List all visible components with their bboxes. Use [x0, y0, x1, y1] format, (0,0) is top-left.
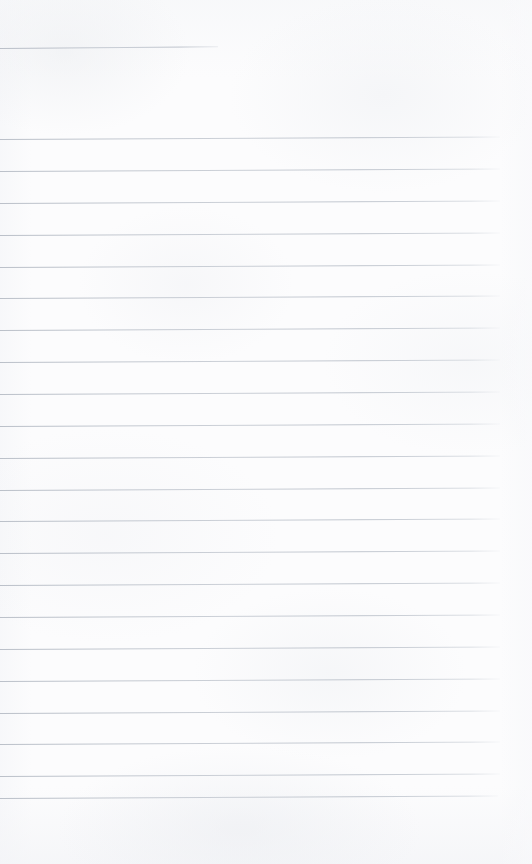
rule-07: [0, 327, 500, 331]
rule-21: [0, 773, 500, 777]
rule-15: [0, 582, 500, 586]
rule-12: [0, 487, 500, 491]
rule-18: [0, 678, 500, 682]
scanned-page: [0, 0, 532, 864]
rule-05: [0, 264, 500, 268]
right-margin-band: [498, 0, 532, 864]
rule-10: [0, 423, 500, 427]
rule-04: [0, 232, 500, 236]
rule-02: [0, 168, 500, 172]
header-rule: [0, 46, 218, 49]
rule-16: [0, 614, 500, 618]
rule-13: [0, 518, 500, 522]
paper-texture: [0, 0, 532, 864]
rule-01: [0, 136, 500, 140]
rule-19: [0, 710, 500, 714]
rule-03: [0, 200, 500, 204]
rule-17: [0, 646, 500, 650]
rule-11: [0, 455, 500, 459]
rule-09: [0, 391, 500, 395]
rule-06: [0, 295, 500, 299]
rule-22: [0, 795, 498, 799]
rule-20: [0, 741, 500, 745]
rule-08: [0, 359, 500, 363]
rule-14: [0, 550, 500, 554]
